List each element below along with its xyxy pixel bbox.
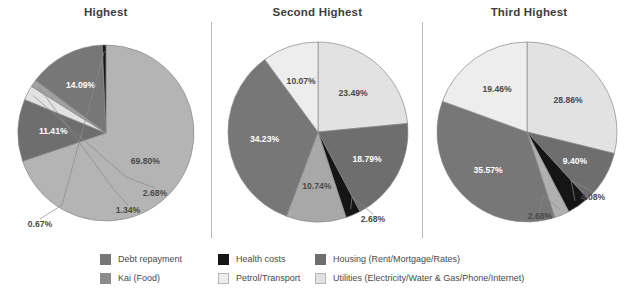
pie-slice-label: 2.68% [143, 188, 168, 198]
legend-label-kai-food: Kai (Food) [118, 273, 160, 284]
pie-chart-figure: Highest 69.80%11.41%2.68%1.34%14.09%0.67… [0, 0, 635, 298]
legend-swatch-utilities [315, 273, 326, 284]
pie-slice-label: 9.40% [563, 156, 588, 166]
pie-chart-highest: 69.80%11.41%2.68%1.34%14.09%0.67% [0, 0, 212, 243]
pie-slice-label: 34.23% [250, 134, 280, 144]
legend-column-2: Health costs Petrol/Transport [218, 250, 300, 288]
legend-label-debt-repayment: Debt repayment [118, 254, 182, 265]
pie-slice-label: 2.68% [360, 214, 385, 224]
pie-slice-label: 10.07% [286, 76, 316, 86]
pie-slice-label: 69.80% [131, 156, 161, 166]
pie-slice-label: 19.46% [483, 84, 513, 94]
pie-slice-label: 10.74% [302, 181, 332, 191]
chart-legend: Debt repayment Kai (Food) Health costs P… [100, 250, 630, 294]
pie-chart-third-highest: 28.86%9.40%4.08%2.68%35.57%19.46% [423, 0, 635, 243]
legend-swatch-debt-repayment [100, 254, 111, 265]
legend-column-1: Debt repayment Kai (Food) [100, 250, 182, 288]
pie-slice-label: 28.86% [554, 95, 584, 105]
legend-item-health-costs: Health costs [218, 250, 300, 268]
legend-item-kai-food: Kai (Food) [100, 269, 182, 287]
pie-svg-third-highest: 28.86%9.40%4.08%2.68%35.57%19.46% [423, 0, 634, 243]
pie-slice-label: 1.34% [116, 205, 141, 215]
pie-panel-highest: Highest 69.80%11.41%2.68%1.34%14.09%0.67… [0, 0, 212, 243]
legend-item-debt-repayment: Debt repayment [100, 250, 182, 268]
legend-swatch-kai-food [100, 273, 111, 284]
pie-slice-label: 35.57% [474, 165, 504, 175]
pie-slice-label: 14.09% [66, 80, 96, 90]
pie-slice-label: 23.49% [338, 88, 368, 98]
legend-item-utilities: Utilities (Electricity/Water & Gas/Phone… [315, 269, 524, 287]
pie-panels: Highest 69.80%11.41%2.68%1.34%14.09%0.67… [0, 0, 635, 243]
pie-chart-second-highest: 23.49%18.79%2.68%10.74%34.23%10.07% [212, 0, 424, 243]
pie-slice-label: 18.79% [352, 154, 382, 164]
legend-label-housing: Housing (Rent/Mortgage/Rates) [333, 254, 460, 265]
pie-svg-second-highest: 23.49%18.79%2.68%10.74%34.23%10.07% [212, 0, 423, 243]
legend-label-utilities: Utilities (Electricity/Water & Gas/Phone… [333, 273, 524, 284]
legend-swatch-housing [315, 254, 326, 265]
pie-slice-label: 2.68% [528, 211, 553, 221]
legend-item-housing: Housing (Rent/Mortgage/Rates) [315, 250, 524, 268]
legend-swatch-health-costs [218, 254, 229, 265]
pie-panel-second-highest: Second Highest 23.49%18.79%2.68%10.74%34… [212, 0, 424, 243]
legend-swatch-petrol-transport [218, 273, 229, 284]
pie-slice-label: 0.67% [28, 219, 53, 229]
legend-label-health-costs: Health costs [236, 254, 286, 265]
pie-slice-label: 4.08% [581, 192, 606, 202]
pie-slice-label: 11.41% [39, 126, 68, 136]
pie-slice [318, 42, 408, 132]
pie-panel-third-highest: Third Highest 28.86%9.40%4.08%2.68%35.57… [423, 0, 635, 243]
legend-item-petrol-transport: Petrol/Transport [218, 269, 300, 287]
pie-svg-highest: 69.80%11.41%2.68%1.34%14.09%0.67% [0, 0, 211, 243]
legend-label-petrol-transport: Petrol/Transport [236, 273, 300, 284]
legend-column-3: Housing (Rent/Mortgage/Rates) Utilities … [315, 250, 524, 288]
